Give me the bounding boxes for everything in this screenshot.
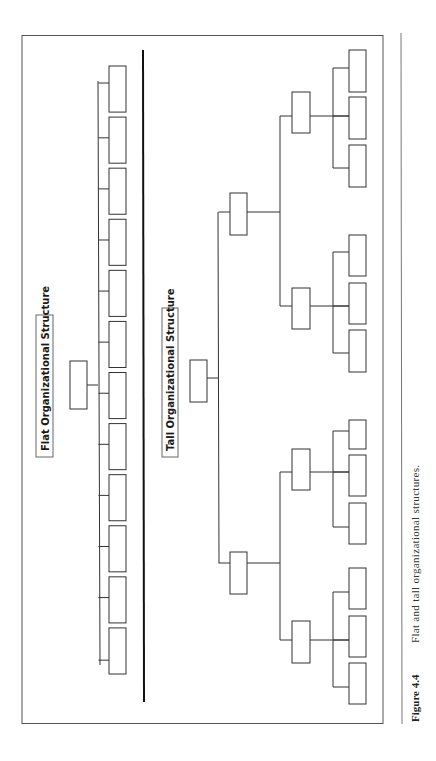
section-divider	[143, 50, 144, 702]
tall-level4-box	[349, 235, 366, 276]
tall-level4-box	[349, 330, 366, 372]
tall-level4-box	[349, 283, 366, 324]
flat-subordinate-box	[109, 475, 126, 521]
flat-subordinate-box	[109, 270, 126, 316]
tall-level4-box	[349, 50, 366, 92]
tall-level3-box	[292, 449, 310, 490]
flat-subordinate-box	[109, 321, 126, 367]
flat-subordinate-box	[109, 66, 126, 112]
tall-level3-box	[292, 288, 310, 329]
flat-subordinate-box	[109, 168, 126, 214]
tall-level4-box	[349, 568, 366, 609]
tall-level4-box	[349, 616, 366, 657]
flat-title: Flat Organizational Structure	[40, 286, 51, 451]
flat-subordinate-box	[109, 219, 126, 265]
tall-title: Tall Organizational Structure	[165, 288, 176, 451]
flat-subordinate-box	[109, 373, 126, 419]
flat-subordinate-box	[109, 424, 126, 470]
tall-level2-box	[230, 193, 247, 235]
tall-level4-box	[349, 97, 366, 139]
tall-level4-box	[349, 420, 366, 449]
flat-spine	[98, 81, 100, 665]
flat-subordinate-box	[109, 577, 126, 623]
tall-level4-box	[349, 503, 366, 544]
tall-level3-box	[292, 92, 310, 133]
flat-head-box	[70, 361, 87, 409]
tall-subtree	[219, 50, 367, 704]
tall-level1-spine	[218, 212, 219, 563]
tall-level4-box	[349, 663, 366, 704]
flat-structure: Flat Organizational Structure	[36, 66, 126, 674]
tall-level1-box	[190, 360, 207, 402]
flat-subordinate-box	[109, 628, 126, 674]
flat-subordinate-box	[109, 526, 126, 572]
tall-level2-box	[230, 552, 247, 594]
tall-level3-box	[292, 621, 310, 663]
figure-number: Figure 4.4	[409, 674, 421, 722]
figure-caption-text: Flat and tall organizational structures.	[409, 465, 421, 643]
flat-subordinates	[99, 66, 127, 674]
tall-structure: Tall Organizational Structure	[162, 50, 366, 704]
tall-level4-box	[349, 145, 366, 187]
figure-caption: Figure 4.4 Flat and tall organizational …	[409, 465, 421, 722]
tall-level4-box	[349, 455, 366, 496]
org-structure-figure: Flat Organizational Structure Tall Organ…	[0, 0, 436, 761]
flat-subordinate-box	[109, 117, 126, 163]
caption-rule	[401, 33, 402, 724]
